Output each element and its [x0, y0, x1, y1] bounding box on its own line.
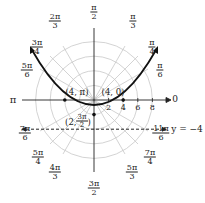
angle-label: 7π4	[144, 149, 156, 166]
point-4-pi	[63, 98, 67, 102]
radial-tick-label: 6	[135, 104, 140, 112]
point-4-0	[121, 98, 125, 102]
angle-label: 3π2	[88, 180, 100, 197]
angle-label: π3	[129, 13, 136, 30]
radial-tick-label: 8	[150, 104, 155, 112]
angle-label: 11π6	[152, 125, 169, 142]
directrix-label: y = −4	[171, 124, 203, 134]
point-label-4-0: (4, 0)	[102, 87, 125, 97]
angle-label: π6	[156, 62, 163, 79]
angle-label: 2π3	[49, 13, 61, 30]
angle-label: 5π4	[32, 149, 44, 166]
axis-label-zero: 0	[172, 95, 178, 103]
radial-tick-label: 2	[106, 104, 111, 112]
point-label-2-3pi-2: (2, 3π2 )	[65, 114, 91, 129]
angle-label: 4π3	[49, 164, 61, 181]
radial-tick-label: 4	[121, 104, 126, 112]
point-label-4-pi: (4, π)	[65, 87, 88, 97]
polar-graph-figure: π2 π3 π4 π6 2π3 3π4 5π6 7π6 5π4 4π3 3π2 …	[0, 0, 205, 203]
point-2-3pi-2	[92, 113, 96, 117]
angle-label: 3π4	[31, 39, 43, 56]
angle-label: 7π6	[19, 125, 31, 142]
angle-label: 5π3	[126, 164, 138, 181]
axis-label-pi: π	[10, 96, 17, 104]
angle-label: π2	[90, 4, 97, 21]
angle-label: 5π6	[21, 62, 33, 79]
angle-label: π4	[148, 39, 155, 56]
